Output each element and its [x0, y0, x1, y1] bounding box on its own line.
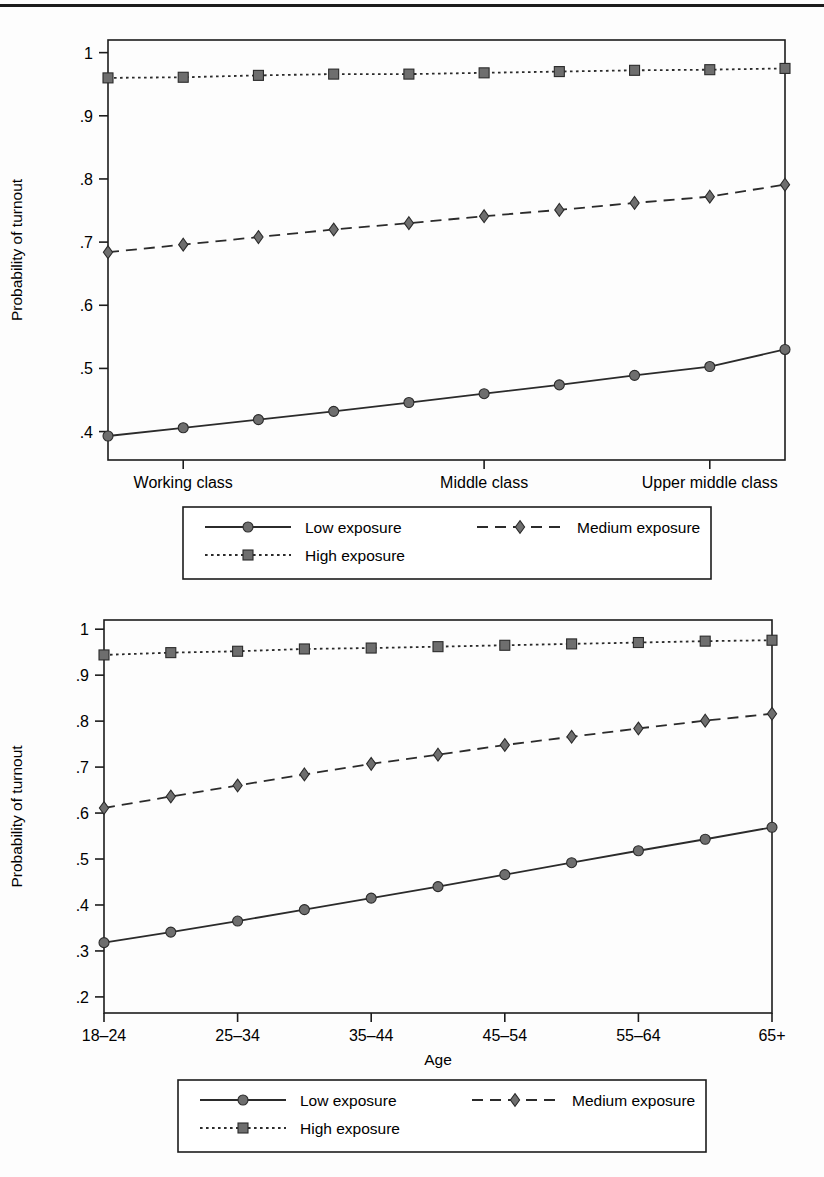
y-axis-tick-label: .4: [76, 897, 89, 914]
y-axis-tick-label: 1: [84, 45, 93, 62]
data-point-square-marker: [299, 644, 309, 654]
data-point-circle-marker: [633, 846, 643, 856]
data-point-square-marker: [554, 67, 564, 77]
y-axis-tick-label: .2: [76, 989, 89, 1006]
y-axis-tick-label: .6: [76, 805, 89, 822]
data-point-diamond-marker: [179, 238, 188, 251]
chart-legend: Low exposureMedium exposureHigh exposure: [178, 1080, 706, 1152]
data-point-square-marker: [630, 65, 640, 75]
data-point-circle-marker: [238, 1095, 248, 1105]
data-point-square-marker: [103, 73, 113, 83]
x-axis-title: Age: [424, 1051, 452, 1068]
y-axis-tick-label: .3: [76, 943, 89, 960]
y-axis-tick-label: .4: [80, 424, 93, 441]
plot-frame: [108, 40, 785, 460]
y-axis-title: Probability of turnout: [8, 745, 25, 888]
data-point-circle-marker: [705, 362, 715, 372]
data-point-square-marker: [479, 68, 489, 78]
data-point-diamond-marker: [780, 178, 789, 191]
data-point-diamond-marker: [404, 217, 413, 230]
data-point-circle-marker: [479, 389, 489, 399]
data-point-circle-marker: [329, 406, 339, 416]
chart-plot-class: 1.9.8.7.6.5.4Working classMiddle classUp…: [0, 10, 824, 580]
y-axis-tick-label: .5: [76, 851, 89, 868]
data-point-square-marker: [780, 63, 790, 73]
data-point-square-marker: [433, 642, 443, 652]
series-line: [108, 349, 785, 436]
legend-label: Medium exposure: [572, 1092, 695, 1109]
data-point-square-marker: [178, 72, 188, 82]
data-point-circle-marker: [366, 893, 376, 903]
top-divider-rule: [0, 4, 824, 7]
data-point-circle-marker: [404, 398, 414, 408]
data-point-square-marker: [700, 636, 710, 646]
data-point-circle-marker: [554, 380, 564, 390]
plot-frame: [104, 620, 772, 1013]
x-axis-tick-label: 55–64: [616, 1027, 661, 1044]
data-point-diamond-marker: [433, 748, 442, 761]
series-medium-exposure: [103, 178, 789, 258]
data-point-diamond-marker: [254, 231, 263, 244]
data-point-circle-marker: [299, 905, 309, 915]
chart-legend: Low exposureMedium exposureHigh exposure: [183, 507, 711, 579]
data-point-square-marker: [99, 650, 109, 660]
data-point-diamond-marker: [300, 768, 309, 781]
data-point-square-marker: [166, 648, 176, 658]
data-point-square-marker: [404, 69, 414, 79]
series-line: [108, 68, 785, 77]
data-point-diamond-marker: [329, 223, 338, 236]
x-axis-tick-label: Middle class: [440, 474, 528, 491]
data-point-square-marker: [233, 646, 243, 656]
y-axis-tick-label: 1: [80, 621, 89, 638]
data-point-diamond-marker: [103, 246, 112, 259]
data-point-circle-marker: [780, 344, 790, 354]
data-point-diamond-marker: [705, 190, 714, 203]
data-point-square-marker: [243, 550, 253, 560]
y-axis-tick-label: .7: [80, 234, 93, 251]
chart-panel-age: 1.9.8.7.6.5.4.3.218–2425–3435–4445–5455–…: [0, 595, 824, 1170]
data-point-circle-marker: [500, 870, 510, 880]
data-point-diamond-marker: [630, 197, 639, 210]
data-point-diamond-marker: [367, 757, 376, 770]
data-point-diamond-marker: [634, 722, 643, 735]
data-point-square-marker: [329, 69, 339, 79]
series-line: [108, 185, 785, 253]
y-axis-tick-label: .7: [76, 759, 89, 776]
data-point-diamond-marker: [701, 714, 710, 727]
data-point-circle-marker: [767, 822, 777, 832]
data-point-square-marker: [253, 70, 263, 80]
legend-label: High exposure: [300, 1120, 400, 1137]
data-point-circle-marker: [567, 858, 577, 868]
data-point-circle-marker: [630, 370, 640, 380]
series-high-exposure: [103, 63, 790, 82]
data-point-square-marker: [633, 638, 643, 648]
data-point-circle-marker: [99, 938, 109, 948]
series-low-exposure: [99, 822, 777, 947]
data-point-square-marker: [767, 635, 777, 645]
data-point-square-marker: [366, 643, 376, 653]
x-axis-tick-label: 65+: [758, 1027, 785, 1044]
data-point-diamond-marker: [480, 210, 489, 223]
data-point-diamond-marker: [233, 779, 242, 792]
data-point-circle-marker: [243, 522, 253, 532]
x-axis-tick-label: 25–34: [215, 1027, 260, 1044]
figure-page: 1.9.8.7.6.5.4Working classMiddle classUp…: [0, 0, 824, 1177]
data-point-circle-marker: [103, 431, 113, 441]
x-axis-tick-label: 45–54: [483, 1027, 528, 1044]
series-medium-exposure: [99, 707, 776, 814]
data-point-diamond-marker: [166, 790, 175, 803]
legend-label: Medium exposure: [577, 519, 700, 536]
y-axis-title: Probability of turnout: [8, 178, 25, 321]
series-low-exposure: [103, 344, 790, 441]
legend-label: Low exposure: [300, 1092, 397, 1109]
data-point-circle-marker: [433, 882, 443, 892]
x-axis-tick-label: Upper middle class: [642, 474, 778, 491]
data-point-diamond-marker: [500, 739, 509, 752]
data-point-square-marker: [567, 639, 577, 649]
y-axis-tick-label: .5: [80, 360, 93, 377]
chart-plot-age: 1.9.8.7.6.5.4.3.218–2425–3435–4445–5455–…: [0, 595, 824, 1170]
y-axis-tick-label: .9: [76, 667, 89, 684]
data-point-circle-marker: [178, 423, 188, 433]
data-point-circle-marker: [700, 834, 710, 844]
data-point-square-marker: [500, 640, 510, 650]
